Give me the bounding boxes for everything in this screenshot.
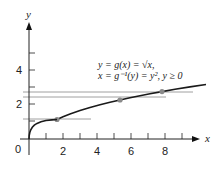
x-tick-label-6: 6 [128, 146, 134, 157]
x-tick-label-2: 2 [60, 146, 66, 157]
y-axis-label: y [26, 9, 31, 20]
y-tick-label-4: 4 [16, 65, 22, 76]
x-tick-label-8: 8 [162, 146, 168, 157]
equation-line-2: x = g⁻¹(y) = y², y ≥ 0 [98, 70, 182, 81]
x-axis-label: x [205, 133, 210, 144]
origin-label: 0 [15, 144, 21, 155]
equation-line-1: y = g(x) = √x, [98, 59, 154, 70]
curve-overlay [0, 0, 218, 172]
sqrt-curve-start [29, 120, 57, 140]
x-tick-label-4: 4 [94, 146, 100, 157]
y-tick-label-2: 2 [16, 99, 22, 110]
